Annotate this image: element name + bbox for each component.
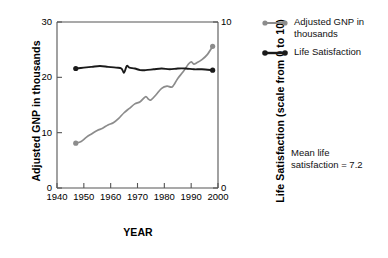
legend-label-gnp: Adjusted GNP in thousands — [294, 16, 364, 39]
chart-legend: Adjusted GNP in thousands Life Satisfact… — [262, 16, 386, 66]
x-axis-tick-label: 1960 — [96, 191, 126, 202]
y-axis-left-tick-label: 10 — [30, 127, 52, 138]
x-axis-tick-label: 1940 — [42, 191, 72, 202]
x-axis-tick-label: 1970 — [123, 191, 153, 202]
x-axis-tick-label: 1950 — [69, 191, 99, 202]
legend-line-marker-life-satisfaction — [262, 47, 288, 59]
x-axis-tick-label: 2000 — [203, 191, 233, 202]
legend-item-life-satisfaction: Life Satisfaction — [262, 46, 386, 59]
x-axis-title: YEAR — [57, 226, 219, 238]
annotation-line1: Mean life — [291, 147, 330, 158]
mean-life-satisfaction-note: Mean life satisfaction = 7.2 — [291, 147, 386, 171]
series-endpoint-marker-1 — [73, 66, 78, 71]
series-endpoint-marker-0 — [210, 44, 215, 49]
legend-line-marker-gnp — [262, 17, 288, 29]
series-line-0 — [76, 46, 213, 143]
series-line-1 — [76, 66, 213, 73]
legend-item-gnp: Adjusted GNP in thousands — [262, 16, 386, 39]
series-endpoint-marker-0 — [73, 141, 78, 146]
legend-label-gnp-line2: thousands — [294, 28, 338, 39]
y-axis-left-tick-label: 20 — [30, 71, 52, 82]
x-axis-tick-label: 1980 — [149, 191, 179, 202]
series-endpoint-marker-1 — [210, 68, 215, 73]
legend-label-life-satisfaction: Life Satisfaction — [294, 46, 361, 58]
y-axis-left-title: Adjusted GNP in thousands — [30, 31, 42, 191]
legend-label-gnp-line1: Adjusted GNP in — [294, 16, 364, 27]
chart-figure: Adjusted GNP in thousands Life Satisfact… — [0, 0, 388, 258]
annotation-line2: satisfaction = 7.2 — [291, 159, 363, 170]
legend-label-life-satisfaction-line1: Life Satisfaction — [294, 46, 361, 57]
y-axis-right-tick-label: 10 — [221, 16, 243, 27]
x-axis-tick-label: 1990 — [176, 191, 206, 202]
y-axis-left-tick-label: 30 — [30, 16, 52, 27]
